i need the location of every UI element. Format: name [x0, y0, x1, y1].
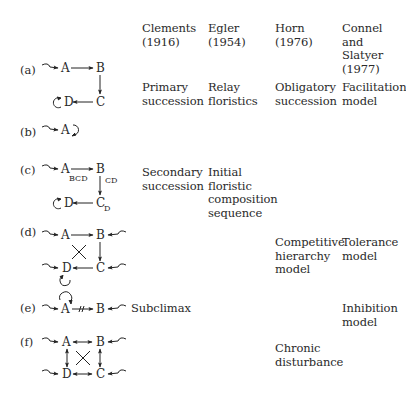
node-c-label: C: [96, 95, 105, 109]
node-a-label: A: [61, 335, 71, 349]
node-b-label: B: [96, 228, 105, 242]
node-b-label: B: [96, 162, 105, 176]
node-d-label: D: [62, 261, 72, 275]
node-b-label: B: [96, 61, 105, 75]
node-c-label: C: [96, 261, 105, 275]
node-a-label: A: [60, 123, 70, 137]
node-d-label: D: [62, 367, 72, 381]
subscript-a: BCD: [69, 174, 88, 183]
subscript-c: D: [104, 204, 110, 213]
node-a-label: A: [60, 228, 70, 242]
node-b-label: B: [96, 302, 105, 316]
node-b-label: B: [96, 335, 105, 349]
diagram-d: [42, 231, 126, 286]
node-a-label: A: [60, 61, 70, 75]
diagram-e: [42, 292, 126, 312]
diagram-f: [42, 338, 126, 374]
node-a-label: A: [60, 302, 70, 316]
node-d-label: D: [64, 196, 74, 210]
subscript-b: CD: [105, 176, 118, 185]
node-d-label: D: [64, 95, 74, 109]
node-c-label: C: [96, 367, 105, 381]
